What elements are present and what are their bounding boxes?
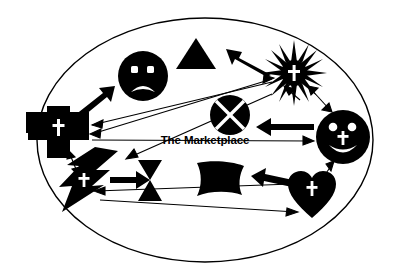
node-scroll[interactable]	[197, 161, 244, 196]
scroll-page-icon	[197, 161, 244, 196]
smiley-eye-right	[348, 123, 357, 132]
smiley-eye-left	[329, 123, 338, 132]
diagram-canvas: The Marketplace	[0, 0, 411, 280]
sad-face-icon	[118, 51, 168, 101]
marketplace-diagram: The Marketplace	[0, 0, 411, 280]
sad-face-eye-left	[131, 66, 138, 73]
node-x-circle[interactable]	[210, 95, 250, 135]
node-sad-face[interactable]	[118, 51, 168, 101]
sad-face-eye-right	[147, 66, 154, 73]
node-smiley[interactable]	[316, 110, 370, 164]
marketplace-label: The Marketplace	[161, 134, 250, 146]
